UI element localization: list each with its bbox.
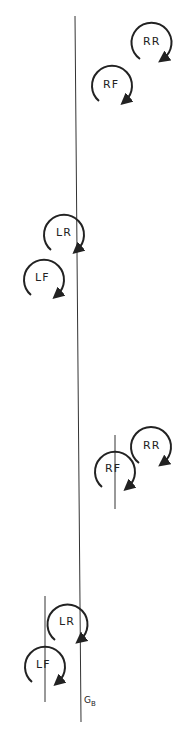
wheel-lf-upper: LF [24, 260, 64, 295]
svg-text:RF: RF [105, 462, 121, 475]
svg-text:LR: LR [56, 226, 72, 239]
svg-text:LR: LR [59, 615, 75, 628]
reference-line [75, 16, 81, 722]
reference-line-label: GB [84, 695, 96, 708]
svg-text:LF: LF [35, 271, 49, 284]
wheel-rf-upper: RF [92, 66, 132, 101]
wheel-rr-lower: RR [131, 427, 171, 463]
svg-text:RR: RR [143, 439, 160, 452]
svg-text:LF: LF [36, 658, 50, 671]
svg-text:RF: RF [103, 78, 119, 91]
wheel-rotation-diagram: GB RR RF LR LF RR RF LR LF [0, 0, 195, 735]
svg-text:RR: RR [143, 35, 160, 48]
wheel-lr-upper: LR [44, 215, 84, 250]
wheel-lr-lower: LR [48, 604, 88, 640]
wheel-rr-upper: RR [132, 23, 172, 61]
